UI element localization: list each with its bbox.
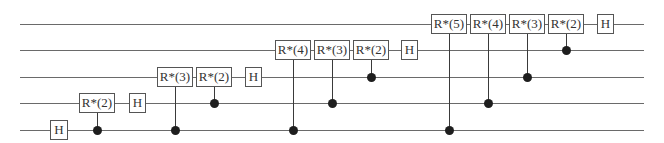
control-dot	[523, 73, 532, 82]
control-dot	[367, 73, 376, 82]
hadamard-gate: H	[50, 120, 68, 140]
rotation-gate: R*(3)	[509, 14, 545, 34]
control-dot	[328, 99, 337, 108]
rotation-gate: R*(3)	[314, 40, 350, 60]
control-dot	[93, 126, 102, 135]
control-dot	[484, 99, 493, 108]
control-line	[293, 50, 294, 130]
rotation-gate: R*(3)	[157, 67, 193, 87]
hadamard-gate: H	[245, 67, 262, 87]
control-dot	[445, 126, 454, 135]
control-line	[449, 24, 450, 130]
hadamard-gate: H	[129, 93, 146, 113]
rotation-gate: R*(2)	[353, 40, 389, 60]
quantum-circuit-diagram: HR*(2)HR*(3)R*(2)HR*(4)R*(3)R*(2)HR*(5)R…	[0, 0, 664, 143]
control-dot	[289, 126, 298, 135]
rotation-gate: R*(2)	[196, 67, 232, 87]
hadamard-gate: H	[597, 14, 614, 34]
control-dot	[210, 99, 219, 108]
control-dot	[562, 46, 571, 55]
rotation-gate: R*(4)	[470, 14, 506, 34]
rotation-gate: R*(4)	[275, 40, 311, 60]
rotation-gate: R*(2)	[548, 14, 584, 34]
rotation-gate: R*(5)	[431, 14, 467, 34]
control-line	[488, 24, 489, 103]
rotation-gate: R*(2)	[79, 93, 115, 113]
control-dot	[171, 126, 180, 135]
qubit-wire-4	[20, 130, 644, 131]
hadamard-gate: H	[401, 40, 418, 60]
